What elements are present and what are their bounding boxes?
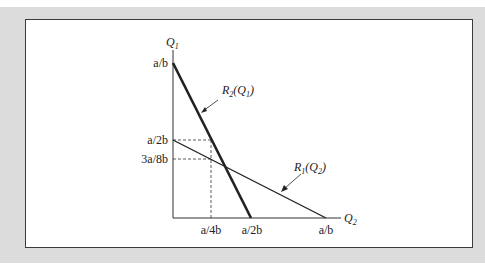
y-tick-label: a/b [153, 56, 168, 70]
curve-r1 [173, 140, 326, 218]
x-tick-label: a/4b [201, 223, 222, 237]
arrowhead-r2 [201, 107, 207, 113]
curve-label-r1: R1(Q2) [293, 160, 326, 176]
x-tick-label: a/2b [242, 223, 263, 237]
x-axis-label: Q2 [344, 211, 357, 227]
arrow-r1 [284, 174, 301, 189]
y-axis-label: Q1 [166, 35, 179, 51]
reaction-function-diagram: Q1 Q2 a/b a/2b 3a/8b a/4b a/2b a/b R2(Q1… [0, 0, 485, 266]
y-tick-label: a/2b [147, 133, 168, 147]
x-tick-label: a/b [319, 223, 334, 237]
curve-label-r2: R2(Q1) [221, 83, 254, 99]
y-tick-label: 3a/8b [141, 152, 168, 166]
